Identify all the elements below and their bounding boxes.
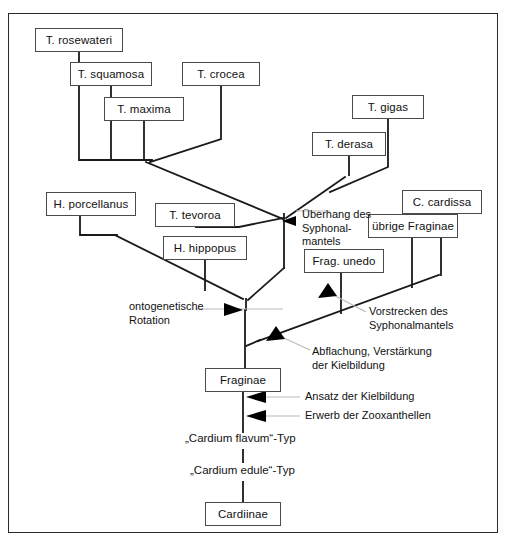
stage-label-cardium-edule: „Cardium edule“-Typ xyxy=(190,464,295,476)
annotation-ueberhang-syphonalmantels: Überhang des Syphonal- mantels xyxy=(302,208,371,249)
annotation-abflachung-kielbildung: Abflachung, Verstärkung der Kielbildung xyxy=(312,345,432,372)
node-label: T. tevoroa xyxy=(169,209,221,221)
node-label: C. cardissa xyxy=(413,196,472,208)
node-label: T. crocea xyxy=(197,68,245,80)
node-label: H. hippopus xyxy=(174,242,236,254)
diagram-canvas: T. rosewateri T. squamosa T. crocea T. m… xyxy=(0,0,508,543)
node-label: T. rosewateri xyxy=(46,34,113,46)
stage-label-cardium-flavum: „Cardium flavum“-Typ xyxy=(185,432,296,444)
node-t-derasa[interactable]: T. derasa xyxy=(312,132,386,156)
node-t-rosewateri[interactable]: T. rosewateri xyxy=(35,28,123,52)
node-frag-unedo[interactable]: Frag. unedo xyxy=(304,249,384,273)
node-label: H. porcellanus xyxy=(54,198,129,210)
node-h-porcellanus[interactable]: H. porcellanus xyxy=(46,192,136,216)
annotation-erwerb-zooxanthellen: Erwerb der Zooxanthellen xyxy=(305,409,431,423)
annotation-ansatz-kielbildung: Ansatz der Kielbildung xyxy=(305,390,414,404)
node-label: T. derasa xyxy=(325,138,373,150)
node-label: T. squamosa xyxy=(78,68,144,80)
node-fraginae[interactable]: Fraginae xyxy=(205,368,281,392)
node-label: T. gigas xyxy=(368,101,408,113)
node-t-gigas[interactable]: T. gigas xyxy=(352,95,424,119)
node-label: T. maxima xyxy=(117,103,170,115)
node-h-hippopus[interactable]: H. hippopus xyxy=(163,236,247,260)
annotation-ontogenetische-rotation: ontogenetische Rotation xyxy=(129,300,204,327)
node-label: Cardiinae xyxy=(218,508,268,520)
node-label: Frag. unedo xyxy=(312,255,375,267)
node-t-crocea[interactable]: T. crocea xyxy=(182,62,260,86)
node-t-maxima[interactable]: T. maxima xyxy=(104,97,184,121)
node-cardiinae[interactable]: Cardiinae xyxy=(205,502,281,526)
annotation-vorstrecken-syphonalmantels: Vorstrecken des Syphonalmantels xyxy=(369,305,453,332)
node-uebrige-fraginae[interactable]: übrige Fraginae xyxy=(368,214,458,238)
node-label: Fraginae xyxy=(220,374,266,386)
node-label: übrige Fraginae xyxy=(372,220,454,232)
node-t-tevoroa[interactable]: T. tevoroa xyxy=(155,203,235,227)
node-t-squamosa[interactable]: T. squamosa xyxy=(70,62,152,86)
diagram-frame xyxy=(8,13,498,533)
node-c-cardissa[interactable]: C. cardissa xyxy=(402,190,482,214)
